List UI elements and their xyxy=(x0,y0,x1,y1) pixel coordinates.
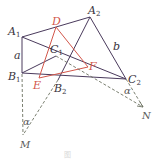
label-e: E xyxy=(32,79,41,92)
label-side-b: b xyxy=(113,40,120,53)
label-d: D xyxy=(51,15,61,28)
geometry-diagram: A1 B1 C1 A2 B2 C2 D E F M N a b α α 图 xyxy=(0,0,156,160)
label-b1: B1 xyxy=(7,70,21,84)
label-n: N xyxy=(141,110,152,121)
label-side-a: a xyxy=(14,49,21,62)
triangle-a1b1c1 xyxy=(22,37,126,79)
label-a1: A1 xyxy=(7,25,20,39)
label-f: F xyxy=(88,60,97,73)
label-m: M xyxy=(19,139,31,150)
label-c1: C1 xyxy=(50,43,63,57)
side-b1-c1 xyxy=(22,56,56,73)
side-d-f xyxy=(56,27,88,67)
label-b2: B2 xyxy=(53,82,67,96)
figure-caption: 图 xyxy=(64,151,71,159)
label-alpha-n: α xyxy=(124,85,131,96)
label-a2: A2 xyxy=(87,4,100,18)
side-a1-c1 xyxy=(22,37,126,79)
label-alpha-m: α xyxy=(23,116,30,127)
